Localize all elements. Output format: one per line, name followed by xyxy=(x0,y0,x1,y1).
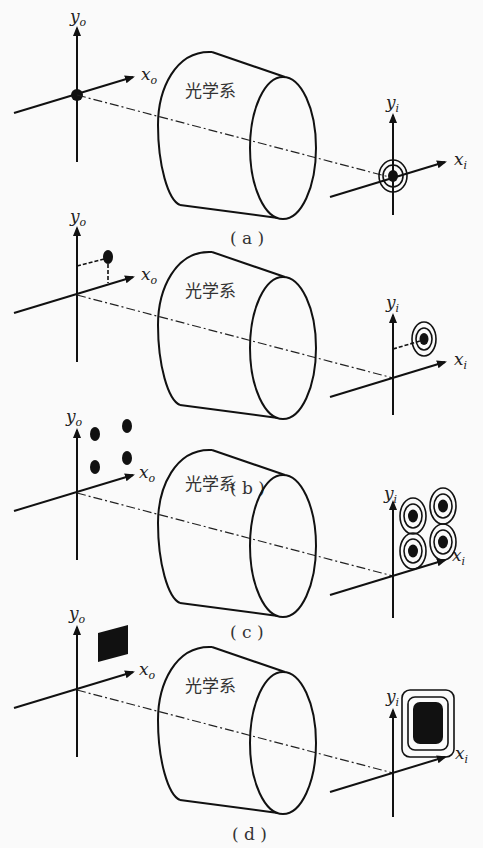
image-x-label: xi xyxy=(454,349,467,372)
panel-b: yo xo 光学系 yi xi ( b ) xyxy=(14,206,467,498)
image-x-axis xyxy=(330,757,445,792)
optical-system-label: 光学系 xyxy=(185,281,236,301)
image-x-label: xi xyxy=(455,743,468,766)
caption-d: ( d ) xyxy=(232,824,267,844)
object-point xyxy=(103,250,113,264)
panel-c: yo xo 光学系 yi xi ( c ) xyxy=(14,406,465,642)
object-x-label: xo xyxy=(141,264,158,287)
image-y-label: yi xyxy=(385,92,399,115)
object-square xyxy=(98,625,128,662)
optical-system-cylinder xyxy=(158,252,316,419)
image-x-axis xyxy=(330,362,445,397)
image-x-label: xi xyxy=(454,149,467,172)
optical-system-cylinder xyxy=(158,52,316,219)
optical-axis xyxy=(77,493,393,576)
image-square-contours xyxy=(402,690,454,757)
optical-imaging-diagram: yo xo 光学系 yi xi ( a ) yo xo 光学系 yi xi xyxy=(0,0,483,848)
image-y-label: yi xyxy=(383,483,397,506)
object-x-axis xyxy=(14,672,133,708)
object-y-label: yo xyxy=(65,406,83,429)
caption-a: ( a ) xyxy=(230,228,264,248)
optical-axis xyxy=(77,690,393,773)
optical-system-label: 光学系 xyxy=(185,474,236,494)
optical-system-label: 光学系 xyxy=(185,81,236,101)
optical-system-label: 光学系 xyxy=(185,676,236,696)
object-x-label: xo xyxy=(139,462,156,485)
object-y-label: yo xyxy=(69,206,87,229)
image-point-rings xyxy=(400,488,456,569)
panel-a: yo xo 光学系 yi xi ( a ) xyxy=(14,6,467,248)
object-x-label: xo xyxy=(141,64,158,87)
object-x-axis xyxy=(14,277,133,313)
image-y-label: yi xyxy=(385,292,399,315)
image-point-rings xyxy=(412,322,436,356)
optical-axis xyxy=(77,295,393,378)
caption-c: ( c ) xyxy=(230,622,264,642)
image-point-rings xyxy=(379,160,407,192)
object-y-label: yo xyxy=(69,6,87,29)
object-points xyxy=(90,419,132,474)
object-x-axis xyxy=(14,475,133,511)
image-x-axis xyxy=(330,560,445,595)
optical-system-cylinder xyxy=(158,450,316,617)
image-y-label: yi xyxy=(385,686,399,709)
image-x-label: xi xyxy=(452,545,465,568)
optical-system-cylinder xyxy=(158,647,316,814)
object-y-label: yo xyxy=(68,603,86,626)
object-x-label: xo xyxy=(139,659,156,682)
optical-axis xyxy=(77,95,393,178)
